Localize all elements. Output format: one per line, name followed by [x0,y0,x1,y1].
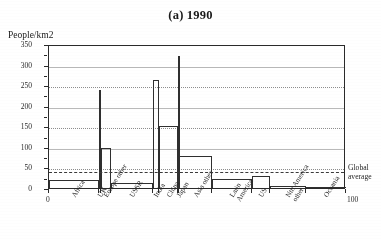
y-tick-label: 250 [6,82,32,90]
x-axis-end-label: 100 [347,195,358,204]
gridline [49,149,344,150]
x-axis-start-label: 0 [46,195,50,204]
y-tick-label: 100 [6,144,32,152]
y-tick-label: 200 [6,103,32,111]
y-tick-mark-minor [44,117,47,118]
y-tick-mark-minor [44,76,47,77]
y-tick-label: 50 [6,164,32,172]
y-tick-label: 0 [6,185,32,193]
y-tick-label: 300 [6,62,32,70]
y-axis-label: People/km2 [8,30,53,40]
global-average-annotation: Global average [348,164,381,181]
gridline [49,108,344,109]
y-tick-mark-minor [44,55,47,56]
x-tick-mark [211,189,212,193]
global-average-line2: average [348,173,381,181]
x-tick-mark [345,189,346,193]
y-tick-label: 350 [6,41,32,49]
gridline [49,128,344,129]
y-tick-mark-minor [44,138,47,139]
gridline [49,67,344,68]
plot-inner [49,46,344,188]
chart-title: (a) 1990 [0,8,381,23]
x-tick-mark [251,189,252,193]
figure-population-density-1990: (a) 1990 People/km2 05010015020025030035… [0,0,381,239]
y-tick-mark-minor [44,96,47,97]
y-tick-label: 150 [6,123,32,131]
gridline [49,87,344,88]
y-tick-mark-minor [44,158,47,159]
bar-china [159,126,178,188]
y-tick-mark-minor [44,179,47,180]
x-tick-mark [48,189,49,193]
